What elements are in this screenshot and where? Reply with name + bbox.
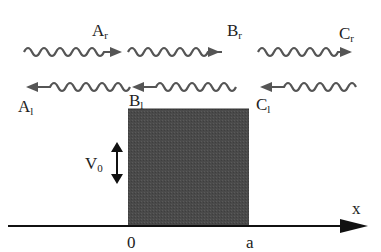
axis-label-x: x: [352, 200, 361, 217]
barrier-diagram: Ar Br Cr Al Bl Cl V0 x 0 a: [0, 0, 381, 252]
label-C-r: Cr: [339, 25, 354, 44]
label-A-r: Ar: [92, 22, 108, 41]
wave-A-r: [24, 47, 122, 57]
diagram-canvas: [0, 0, 381, 252]
tick-label-a: a: [246, 234, 254, 251]
arrow-right-icon: [110, 47, 122, 57]
tick-label-0: 0: [127, 234, 136, 251]
arrow-left-icon: [26, 82, 38, 92]
potential-barrier: [128, 109, 249, 226]
label-B-l: Bl: [129, 92, 143, 111]
arrow-left-icon: [260, 82, 272, 92]
label-C-l: Cl: [256, 96, 270, 115]
wave-A-l: [26, 82, 130, 92]
label-A-l: Al: [18, 98, 33, 117]
wave-C-l: [260, 82, 356, 92]
arrow-right-icon: [208, 47, 220, 57]
wave-B-l: [132, 82, 236, 92]
wave-B-r: [128, 47, 222, 57]
arrow-right-icon: [340, 47, 352, 57]
height-double-arrow-icon: [111, 142, 123, 184]
axis-arrow-icon: [340, 219, 368, 233]
label-V0: V0: [85, 155, 103, 174]
wave-C-r: [258, 47, 352, 57]
label-B-r: Br: [227, 22, 242, 41]
